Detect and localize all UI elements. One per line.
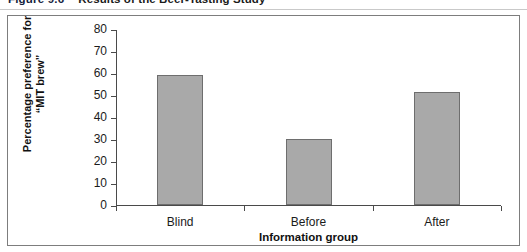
x-tick-origin bbox=[116, 206, 117, 211]
y-axis-label-line2: “MIT brew” bbox=[34, 0, 47, 174]
bar-chart: Percentage preference for “MIT brew” 010… bbox=[8, 16, 521, 247]
y-tick-label: 70 bbox=[94, 44, 107, 58]
bar-blind bbox=[157, 75, 203, 205]
figure-frame: Percentage preference for “MIT brew” 010… bbox=[7, 15, 520, 246]
figure-title: Results of the Beer-Tasting Study bbox=[78, 0, 265, 5]
y-axis-line bbox=[116, 30, 117, 206]
x-axis-label: Information group bbox=[116, 231, 501, 243]
x-tick-label-blind: Blind bbox=[167, 215, 194, 229]
x-tick bbox=[244, 206, 245, 211]
y-tick-label: 60 bbox=[94, 66, 107, 80]
x-tick-label-after: After bbox=[424, 215, 449, 229]
y-tick-label: 30 bbox=[94, 132, 107, 146]
caption-divider bbox=[0, 9, 527, 10]
bar-before bbox=[286, 139, 332, 205]
y-tick: 10 bbox=[111, 184, 116, 185]
y-tick-label: 80 bbox=[94, 22, 107, 36]
x-axis-line bbox=[116, 205, 501, 206]
y-tick-label: 50 bbox=[94, 88, 107, 102]
y-tick: 80 bbox=[111, 30, 116, 31]
y-tick: 70 bbox=[111, 52, 116, 53]
x-tick bbox=[373, 206, 374, 211]
y-tick-label: 0 bbox=[100, 198, 107, 212]
y-tick: 30 bbox=[111, 140, 116, 141]
y-tick: 40 bbox=[111, 118, 116, 119]
y-tick-label: 40 bbox=[94, 110, 107, 124]
x-tick bbox=[501, 206, 502, 211]
y-axis-label-line1: Percentage preference for bbox=[21, 0, 34, 174]
y-tick: 60 bbox=[111, 74, 116, 75]
y-tick-label: 10 bbox=[94, 176, 107, 190]
plot-area: 01020304050607080 BlindBeforeAfter bbox=[116, 30, 501, 206]
y-tick-label: 20 bbox=[94, 154, 107, 168]
y-tick: 20 bbox=[111, 162, 116, 163]
y-tick: 50 bbox=[111, 96, 116, 97]
y-axis-label: Percentage preference for “MIT brew” bbox=[21, 0, 47, 174]
x-tick-label-before: Before bbox=[291, 215, 326, 229]
bar-after bbox=[414, 92, 460, 205]
